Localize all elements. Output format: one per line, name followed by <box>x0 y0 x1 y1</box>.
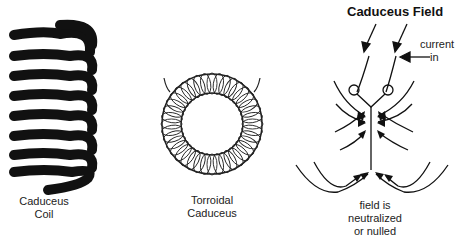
toroidal-caduceus-label: Torroidal Caduceus <box>180 194 244 220</box>
caduceus-field-title: Caduceus Field <box>347 4 443 19</box>
caduceus-coil-drawing <box>14 25 92 190</box>
current-in-annotation: current in <box>414 38 460 64</box>
field-neutralized-label: field is neutralized or nulled <box>340 199 410 238</box>
caduceus-coil-label: Caduceus Coil <box>14 195 74 221</box>
toroidal-caduceus-drawing <box>161 73 263 175</box>
